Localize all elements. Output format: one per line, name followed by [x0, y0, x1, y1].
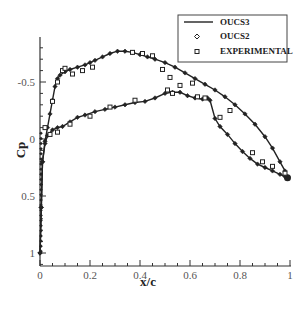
experimental-square-marker	[141, 52, 145, 56]
oucs2-diamond-marker	[270, 169, 274, 173]
experimental-square-marker	[56, 80, 60, 84]
legend: OUCS3 OUCS2 EXPERIMENTAL	[178, 15, 293, 62]
y-tick-label: 0	[30, 133, 36, 145]
experimental-square-marker	[43, 126, 47, 130]
oucs2-diamond-marker	[108, 51, 112, 55]
oucs2-diamond-marker	[93, 58, 97, 62]
oucs2-diamond-marker	[153, 96, 157, 100]
experimental-square-marker	[261, 160, 265, 164]
legend-label-experimental: EXPERIMENTAL	[220, 46, 293, 56]
oucs2-diamond-marker	[113, 105, 117, 109]
oucs2-diamond-marker	[278, 172, 282, 176]
experimental-square-marker	[161, 67, 165, 71]
oucs2-diamond-marker	[143, 99, 147, 103]
experimental-square-marker	[81, 69, 85, 73]
experimental-square-marker	[63, 66, 67, 70]
oucs2-diamond-marker	[83, 113, 87, 117]
oucs2-diamond-marker	[145, 55, 149, 59]
x-tick-label: 0.6	[183, 269, 197, 281]
x-tick-label: 0.8	[233, 269, 247, 281]
oucs2-diamond-marker	[88, 60, 92, 64]
experimental-square-marker	[228, 109, 232, 113]
oucs2-diamond-marker	[163, 60, 167, 64]
y-tick-label: 1	[30, 247, 36, 259]
experimental-square-marker	[178, 83, 182, 87]
experimental-square-marker	[48, 132, 52, 136]
oucs2-diamond-marker	[53, 84, 57, 88]
experimental-square-marker	[91, 65, 95, 69]
oucs2-diamond-marker	[75, 65, 79, 69]
x-tick-label: 1	[287, 269, 293, 281]
oucs2-diamond-marker	[123, 103, 127, 107]
experimental-square-marker	[271, 164, 275, 168]
oucs2-diamond-marker	[185, 93, 189, 97]
data-series	[38, 49, 291, 255]
experimental-square-marker	[191, 81, 195, 85]
experimental-square-marker	[196, 95, 200, 99]
legend-label-oucs3: OUCS3	[220, 17, 250, 27]
y-tick-label: 0.5	[21, 190, 35, 202]
experimental-square-marker	[56, 130, 60, 134]
x-tick-label: 0	[37, 269, 43, 281]
oucs2-diamond-marker	[48, 112, 52, 116]
experimental-square-marker	[151, 54, 155, 58]
oucs2-diamond-marker	[55, 125, 59, 129]
experimental-square-marker	[166, 88, 170, 92]
oucs2-diamond-marker	[83, 63, 87, 67]
experimental-square-marker	[133, 98, 137, 102]
legend-label-oucs2: OUCS2	[220, 31, 250, 41]
oucs2-diamond-marker	[68, 67, 72, 71]
oucs2-diamond-marker	[115, 49, 119, 53]
experimental-square-marker	[108, 105, 112, 109]
experimental-square-marker	[88, 114, 92, 118]
oucs2-diamond-marker	[93, 109, 97, 113]
experimental-square-marker	[218, 115, 222, 119]
experimental-square-marker	[251, 151, 255, 155]
experimental-square-marker	[171, 91, 175, 95]
experimental-square-marker	[131, 50, 135, 54]
x-axis-title: x/c	[140, 274, 156, 289]
experimental-square-marker	[283, 171, 287, 175]
experimental-square-marker	[203, 96, 207, 100]
oucs2-diamond-marker	[103, 107, 107, 111]
experimental-square-marker	[168, 75, 172, 79]
y-tick-label: -0.5	[18, 76, 36, 88]
x-tick-label: 0.2	[83, 269, 97, 281]
oucs2-diamond-marker	[123, 49, 127, 53]
experimental-square-marker	[51, 99, 55, 103]
oucs2-diamond-marker	[100, 55, 104, 59]
experimental-square-marker	[68, 122, 72, 126]
y-axis-title: Cp	[13, 142, 28, 159]
oucs2-diamond-marker	[178, 90, 182, 94]
experimental-square-marker	[71, 72, 75, 76]
cp-distribution-chart: -0.500.5100.20.40.60.81 OUCS3 OUCS2 EXPE…	[0, 0, 308, 312]
oucs2-diamond-marker	[263, 165, 267, 169]
